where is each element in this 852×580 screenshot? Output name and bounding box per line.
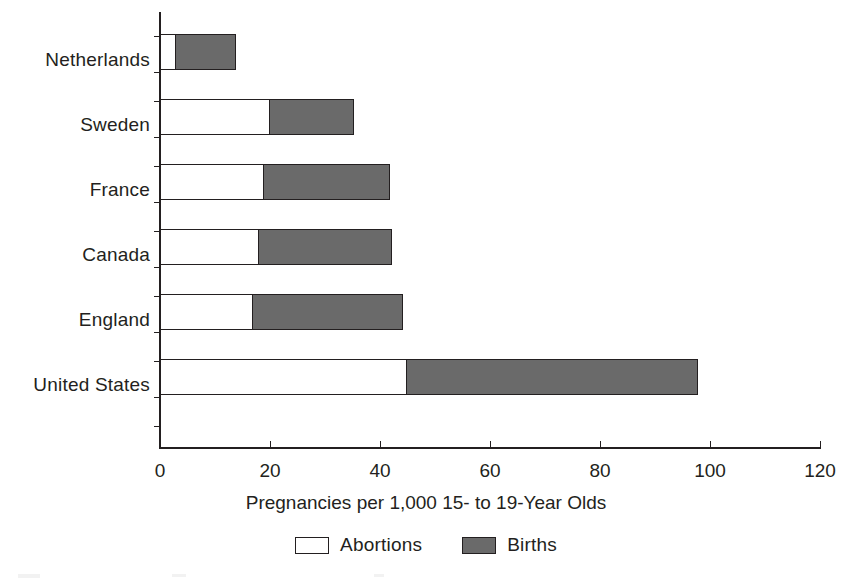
bar-segment-abortions (160, 294, 254, 330)
bar-segment-births (263, 164, 390, 200)
bar-england (160, 294, 403, 330)
bar-segment-births (175, 34, 236, 70)
x-axis-tick-0 (160, 441, 161, 449)
scan-artifact (172, 574, 186, 577)
x-axis-label-40: 40 (369, 460, 390, 482)
y-axis-tick (154, 397, 160, 398)
bar-segment-births (406, 359, 698, 395)
bar-segment-births (252, 294, 403, 330)
bar-united-states (160, 359, 698, 395)
bar-segment-abortions (160, 164, 265, 200)
plot-area: 0 20 40 60 80 100 120 (160, 12, 820, 447)
legend-item-abortions: Abortions (295, 534, 422, 556)
bar-segment-abortions (160, 34, 177, 70)
stacked-bar-chart: Netherlands Sweden France Canada England… (0, 0, 852, 580)
chart-legend: Abortions Births (0, 534, 852, 556)
legend-item-births: Births (462, 534, 557, 556)
x-axis-label-0: 0 (155, 460, 166, 482)
x-axis-tick-60 (490, 441, 491, 449)
category-label-england: England (79, 310, 150, 329)
bar-segment-abortions (160, 229, 259, 265)
bar-segment-abortions (160, 359, 408, 395)
bar-netherlands (160, 34, 236, 70)
x-axis-tick-20 (270, 441, 271, 449)
y-axis-tick (154, 426, 160, 427)
x-axis-tick-40 (380, 441, 381, 449)
y-axis-tick (154, 72, 160, 73)
filled-square-swatch-icon (462, 537, 496, 554)
x-axis-title: Pregnancies per 1,000 15- to 19-Year Old… (0, 492, 852, 514)
legend-label-births: Births (507, 534, 557, 556)
category-label-canada: Canada (82, 245, 150, 264)
scan-artifact (18, 574, 40, 578)
bar-segment-births (258, 229, 393, 265)
y-axis-tick (154, 267, 160, 268)
open-square-swatch-icon (295, 537, 329, 554)
x-axis-tick-100 (710, 441, 711, 449)
x-axis-label-100: 100 (694, 460, 726, 482)
y-axis-tick (154, 137, 160, 138)
category-label-sweden: Sweden (80, 115, 150, 134)
bar-sweden (160, 99, 354, 135)
bar-france (160, 164, 390, 200)
x-axis-tick-120 (820, 441, 821, 449)
y-axis-tick (154, 332, 160, 333)
category-label-netherlands: Netherlands (45, 50, 150, 69)
y-axis-tick (154, 202, 160, 203)
x-axis-label-120: 120 (804, 460, 836, 482)
scan-artifact (374, 574, 384, 577)
bar-canada (160, 229, 392, 265)
bar-segment-abortions (160, 99, 270, 135)
category-label-france: France (90, 180, 150, 199)
x-axis-tick-80 (600, 441, 601, 449)
x-axis-label-80: 80 (589, 460, 610, 482)
x-axis-label-60: 60 (479, 460, 500, 482)
x-axis-label-20: 20 (259, 460, 280, 482)
category-label-united-states: United States (33, 375, 150, 394)
bar-segment-births (269, 99, 354, 135)
legend-label-abortions: Abortions (340, 534, 422, 556)
